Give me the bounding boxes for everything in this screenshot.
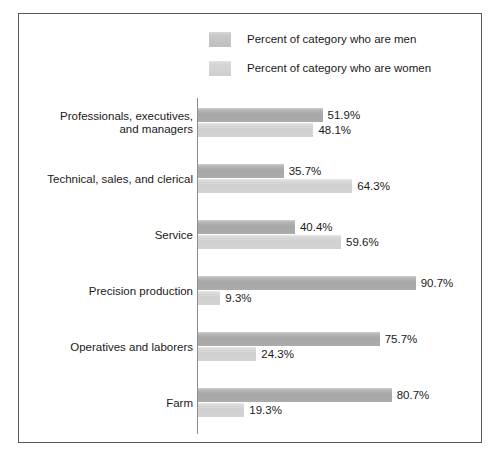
legend-item-women: Percent of category who are women	[209, 61, 431, 76]
bar-pair: 75.7%24.3%	[198, 332, 483, 362]
category-label: Farm	[35, 397, 193, 410]
bar-value-label: 24.3%	[261, 348, 294, 360]
bar-row-men[interactable]: 80.7%	[198, 388, 483, 402]
bar-row-men[interactable]: 90.7%	[198, 276, 483, 290]
plot-area: Professionals, executives,and managers51…	[19, 94, 483, 442]
bar-group: Farm80.7%19.3%	[19, 386, 483, 420]
bar-row-women[interactable]: 59.6%	[198, 235, 483, 249]
bar-group: Service40.4%59.6%	[19, 218, 483, 252]
bar-men[interactable]	[198, 388, 392, 402]
value-axis-line	[197, 98, 198, 434]
bar-women[interactable]	[198, 179, 352, 193]
bar-group: Operatives and laborers75.7%24.3%	[19, 330, 483, 364]
bar-women[interactable]	[198, 291, 220, 305]
bar-group: Technical, sales, and clerical35.7%64.3%	[19, 162, 483, 196]
bar-group: Professionals, executives,and managers51…	[19, 106, 483, 140]
category-label: Technical, sales, and clerical	[35, 173, 193, 186]
bar-row-women[interactable]: 19.3%	[198, 403, 483, 417]
category-label: Precision production	[35, 285, 193, 298]
bar-women[interactable]	[198, 123, 313, 137]
bar-women[interactable]	[198, 235, 341, 249]
legend-swatch-men-icon	[209, 32, 231, 47]
bar-women[interactable]	[198, 403, 244, 417]
bar-row-men[interactable]: 75.7%	[198, 332, 483, 346]
legend-item-men: Percent of category who are men	[209, 32, 431, 47]
bar-row-women[interactable]: 24.3%	[198, 347, 483, 361]
bar-men[interactable]	[198, 108, 323, 122]
bar-women[interactable]	[198, 347, 256, 361]
bar-row-men[interactable]: 35.7%	[198, 164, 483, 178]
bar-value-label: 75.7%	[385, 333, 418, 345]
bar-group: Precision production90.7%9.3%	[19, 274, 483, 308]
bar-value-label: 19.3%	[249, 404, 282, 416]
bar-value-label: 51.9%	[328, 109, 361, 121]
category-label: Professionals, executives,and managers	[35, 110, 193, 136]
bar-value-label: 90.7%	[421, 277, 454, 289]
bar-men[interactable]	[198, 332, 380, 346]
bar-value-label: 40.4%	[300, 221, 333, 233]
bar-pair: 40.4%59.6%	[198, 220, 483, 250]
bar-row-women[interactable]: 64.3%	[198, 179, 483, 193]
bar-row-women[interactable]: 48.1%	[198, 123, 483, 137]
legend-swatch-women-icon	[209, 61, 231, 76]
chart-frame: Percent of category who are men Percent …	[18, 13, 482, 443]
bar-pair: 80.7%19.3%	[198, 388, 483, 418]
bar-row-men[interactable]: 40.4%	[198, 220, 483, 234]
bar-pair: 51.9%48.1%	[198, 108, 483, 138]
bar-value-label: 48.1%	[318, 124, 351, 136]
bar-value-label: 80.7%	[397, 389, 430, 401]
bar-value-label: 35.7%	[289, 165, 322, 177]
bar-men[interactable]	[198, 276, 416, 290]
legend-label-men: Percent of category who are men	[247, 32, 416, 47]
category-label: Operatives and laborers	[35, 341, 193, 354]
bar-men[interactable]	[198, 164, 284, 178]
bar-value-label: 9.3%	[225, 292, 251, 304]
bar-pair: 35.7%64.3%	[198, 164, 483, 194]
bar-pair: 90.7%9.3%	[198, 276, 483, 306]
bar-row-men[interactable]: 51.9%	[198, 108, 483, 122]
bar-value-label: 64.3%	[357, 180, 390, 192]
chart-legend: Percent of category who are men Percent …	[209, 32, 431, 76]
bar-row-women[interactable]: 9.3%	[198, 291, 483, 305]
category-label: Service	[35, 229, 193, 242]
legend-label-women: Percent of category who are women	[247, 61, 431, 76]
bar-men[interactable]	[198, 220, 295, 234]
bar-value-label: 59.6%	[346, 236, 379, 248]
